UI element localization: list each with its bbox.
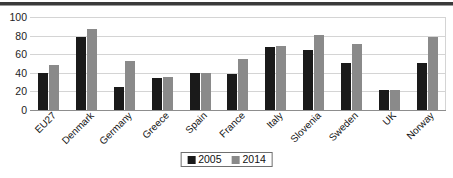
y-tick-label-80: 80 [1,31,27,41]
bar [379,90,389,110]
bar [76,37,86,110]
bar [314,35,324,110]
y-tick-label-100: 100 [1,12,27,22]
legend-label: 2005 [198,154,221,165]
x-tick-label-text: France [217,110,247,140]
bar [265,47,275,110]
bar-chart-figure: 020406080100 EU27DenmarkGermanyGreeceSpa… [0,0,453,178]
x-label-cell: Germany [106,112,144,160]
x-tick-label-text: Italy [264,110,285,131]
bar [303,50,313,110]
legend-label: 2014 [243,154,266,165]
bar-group [257,17,295,110]
y-tick-label-60: 60 [1,49,27,59]
bar [87,29,97,110]
chart-legend: 20052014 [180,152,273,167]
x-tick-label-text: Greece [140,110,171,141]
y-axis: 020406080100 [0,0,27,127]
legend-swatch-icon [187,156,195,164]
bar [227,74,237,110]
bar-group [295,17,333,110]
x-label-cell: Norway [408,112,446,160]
x-tick-label-text: Sweden [327,110,360,143]
y-tick-label-0: 0 [1,105,27,115]
legend-item: 2005 [187,154,221,165]
x-tick-label-text: EU27 [32,110,57,135]
bar [190,73,200,110]
y-tick-label-20: 20 [1,86,27,96]
bar-groups [30,17,446,110]
x-tick-label-text: Norway [404,110,436,142]
legend-swatch-icon [232,156,240,164]
bar-group [68,17,106,110]
legend-item: 2014 [232,154,266,165]
top-divider-rule-thin [0,5,453,6]
bar [428,37,438,110]
x-label-cell: Greece [143,112,181,160]
bar [38,73,48,110]
x-tick-label-text: Spain [183,110,209,136]
bar [417,63,427,110]
y-tick-label-40: 40 [1,68,27,78]
x-label-cell: Sweden [333,112,371,160]
x-tick-label-text: UK [381,110,399,128]
x-label-cell: UK [370,112,408,160]
bar [341,63,351,110]
